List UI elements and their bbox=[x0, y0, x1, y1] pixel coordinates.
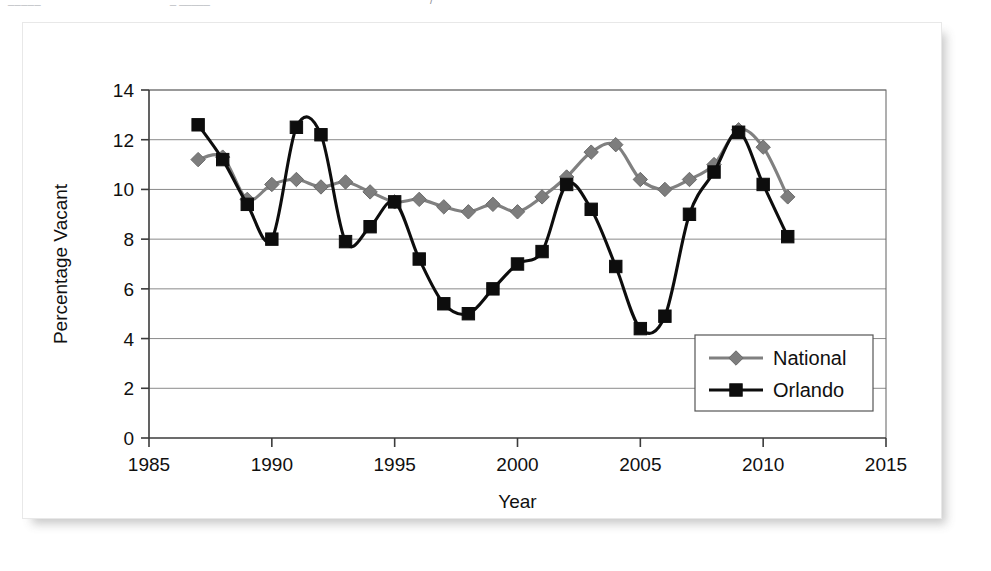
legend-marker-orlando bbox=[730, 384, 742, 396]
series-orlando-line bbox=[198, 117, 788, 333]
x-tick-label: 2015 bbox=[865, 454, 907, 475]
clipped-text-fragment-3: / bbox=[430, 0, 433, 6]
y-tick-label: 0 bbox=[123, 428, 134, 449]
x-tick-label: 1985 bbox=[128, 454, 170, 475]
y-tick-label: 12 bbox=[113, 130, 134, 151]
y-tick-label: 8 bbox=[123, 229, 134, 250]
y-tick-label: 2 bbox=[123, 378, 134, 399]
series-national-marker bbox=[191, 152, 205, 166]
legend-label-national: National bbox=[773, 347, 846, 369]
y-axis-ticks bbox=[141, 90, 149, 438]
series-national-marker bbox=[510, 205, 524, 219]
x-tick-label: 2010 bbox=[742, 454, 784, 475]
series-orlando-marker bbox=[241, 198, 253, 210]
series-orlando-marker bbox=[192, 119, 204, 131]
y-tick-label: 6 bbox=[123, 279, 134, 300]
series-orlando bbox=[192, 117, 794, 335]
series-orlando-marker bbox=[560, 178, 572, 190]
legend-label-orlando: Orlando bbox=[773, 379, 844, 401]
y-axis-tick-labels: 02468101214 bbox=[113, 80, 135, 449]
series-orlando-marker bbox=[536, 245, 548, 257]
series-national-marker bbox=[461, 205, 475, 219]
x-tick-label: 2000 bbox=[496, 454, 538, 475]
series-orlando-marker bbox=[659, 310, 671, 322]
data-series-layer bbox=[191, 117, 795, 335]
y-axis-title: Percentage Vacant bbox=[50, 183, 71, 344]
series-orlando-marker bbox=[290, 121, 302, 133]
series-orlando-marker bbox=[708, 166, 720, 178]
series-orlando-marker bbox=[585, 203, 597, 215]
series-orlando-marker bbox=[339, 235, 351, 247]
chart-figure-frame: 02468101214 1985199019952000200520102015… bbox=[22, 22, 942, 519]
series-orlando-marker bbox=[634, 322, 646, 334]
y-tick-label: 14 bbox=[113, 80, 135, 101]
y-tick-label: 10 bbox=[113, 179, 134, 200]
series-national-marker bbox=[486, 197, 500, 211]
clipped-text-fragment-1: _____ bbox=[8, 0, 41, 6]
y-tick-label: 4 bbox=[123, 329, 134, 350]
series-national-marker bbox=[658, 182, 672, 196]
series-orlando-marker bbox=[438, 298, 450, 310]
x-axis-tick-labels: 1985199019952000200520102015 bbox=[128, 454, 907, 475]
series-national-marker bbox=[437, 200, 451, 214]
series-orlando-marker bbox=[266, 233, 278, 245]
series-orlando-marker bbox=[511, 258, 523, 270]
series-orlando-marker bbox=[388, 196, 400, 208]
series-orlando-marker bbox=[610, 260, 622, 272]
chart-legend: NationalOrlando bbox=[695, 335, 873, 411]
x-tick-label: 1995 bbox=[374, 454, 416, 475]
series-orlando-marker bbox=[683, 208, 695, 220]
x-tick-label: 1990 bbox=[251, 454, 293, 475]
series-national-marker bbox=[363, 185, 377, 199]
clipped-text-fragment-2: _ _____ bbox=[170, 0, 210, 6]
series-orlando-marker bbox=[757, 178, 769, 190]
series-national-marker bbox=[412, 192, 426, 206]
x-tick-label: 2005 bbox=[619, 454, 661, 475]
series-national-marker bbox=[338, 175, 352, 189]
series-orlando-marker bbox=[462, 308, 474, 320]
line-chart: 02468101214 1985199019952000200520102015… bbox=[23, 23, 943, 520]
series-orlando-marker bbox=[732, 126, 744, 138]
series-orlando-marker bbox=[217, 153, 229, 165]
series-national-marker bbox=[289, 172, 303, 186]
clipped-header-text: _____ _ _____ / bbox=[0, 0, 991, 7]
series-orlando-marker bbox=[487, 283, 499, 295]
series-national-marker bbox=[682, 172, 696, 186]
series-national-marker bbox=[781, 190, 795, 204]
series-orlando-marker bbox=[315, 129, 327, 141]
series-orlando-marker bbox=[413, 253, 425, 265]
series-orlando-marker bbox=[782, 230, 794, 242]
x-axis-ticks bbox=[149, 438, 886, 447]
series-orlando-marker bbox=[364, 221, 376, 233]
x-axis-title: Year bbox=[498, 491, 537, 512]
series-national-marker bbox=[314, 180, 328, 194]
